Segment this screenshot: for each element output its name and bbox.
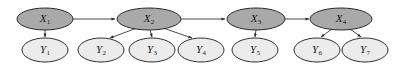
node-subscript-y7: 7 [367, 49, 371, 57]
graph-canvas: X1X2X3X4Y1Y2Y3Y4Y5Y6Y7 [0, 0, 402, 68]
node-subscript-y1: 1 [47, 49, 51, 57]
node-y6[interactable]: Y6 [294, 38, 340, 62]
graph-figure: X1X2X3X4Y1Y2Y3Y4Y5Y6Y7 [0, 0, 402, 68]
node-y2[interactable]: Y2 [78, 38, 124, 62]
edge-x2-to-y2 [110, 28, 137, 38]
node-x4[interactable]: X4 [310, 8, 372, 30]
node-subscript-y2: 2 [103, 49, 107, 57]
edge-x3-to-y5 [255, 30, 256, 37]
node-subscript-x1: 1 [47, 18, 51, 26]
node-y7[interactable]: Y7 [342, 38, 388, 62]
edge-x2-to-y4 [163, 28, 192, 38]
node-subscript-y4: 4 [203, 49, 207, 57]
edge-x4-to-y7 [350, 29, 361, 37]
node-subscript-y6: 6 [319, 49, 323, 57]
node-y5[interactable]: Y5 [232, 38, 278, 62]
nodes-layer: X1X2X3X4Y1Y2Y3Y4Y5Y6Y7 [17, 8, 388, 62]
node-subscript-x2: 2 [151, 18, 155, 26]
node-x2[interactable]: X2 [117, 8, 181, 30]
node-y3[interactable]: Y3 [129, 38, 175, 62]
node-y1[interactable]: Y1 [22, 38, 68, 62]
node-subscript-x4: 4 [343, 18, 347, 26]
node-subscript-y5: 5 [257, 49, 261, 57]
node-subscript-x3: 3 [258, 18, 262, 26]
edge-x2-to-y3 [150, 30, 152, 37]
node-x3[interactable]: X3 [227, 8, 285, 30]
node-y4[interactable]: Y4 [178, 38, 224, 62]
edge-x4-to-y6 [321, 29, 332, 37]
node-x1[interactable]: X1 [17, 8, 73, 30]
node-subscript-y3: 3 [154, 49, 158, 57]
